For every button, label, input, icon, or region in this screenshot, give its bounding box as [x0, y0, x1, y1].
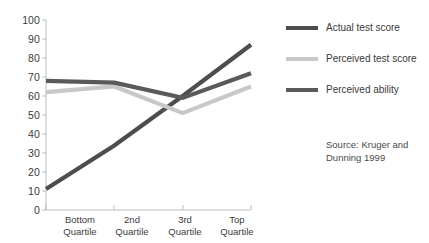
legend-item-actual-test-score[interactable]: Actual test score [286, 22, 429, 34]
source-note-line2: Dunning 1999 [326, 151, 429, 164]
chart-figure: 100 90 80 70 60 50 40 30 20 10 0 [0, 0, 429, 243]
plot-area: 100 90 80 70 60 50 40 30 20 10 0 [0, 0, 260, 243]
source-note-line1: Source: Kruger and [326, 138, 429, 151]
legend-item-label: Perceived test score [326, 53, 417, 65]
x-tick-marks [46, 205, 251, 210]
x-tick-label-line2: Quartile [200, 226, 274, 238]
series-line-actual-test-score [46, 45, 251, 189]
source-note: Source: Kruger and Dunning 1999 [326, 138, 429, 164]
legend-item-label: Actual test score [326, 22, 400, 34]
chart-plot-svg [0, 0, 260, 243]
legend-item-label: Perceived ability [326, 84, 399, 96]
x-tick-label-top-quartile: Top Quartile [200, 214, 274, 237]
series-line-perceived-ability [46, 73, 251, 98]
y-tick-marks [42, 20, 46, 210]
chart-legend: Actual test score Perceived test score P… [286, 22, 429, 115]
legend-swatch-icon [286, 57, 318, 61]
legend-swatch-icon [286, 88, 318, 92]
legend-item-perceived-ability[interactable]: Perceived ability [286, 84, 429, 96]
x-tick-label-line1: Top [200, 214, 274, 226]
legend-swatch-icon [286, 26, 318, 30]
legend-item-perceived-test-score[interactable]: Perceived test score [286, 53, 429, 65]
